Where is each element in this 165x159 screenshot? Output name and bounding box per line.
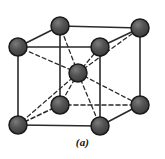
atom-corner: back bottom right <box>131 96 149 114</box>
atom-corner: back top left <box>9 38 27 56</box>
atom-corner: front bottom left <box>9 116 27 134</box>
atom-center: body center <box>69 64 87 82</box>
atom-corner: back top right <box>131 19 149 37</box>
atom-corner: front bottom right <box>91 117 109 135</box>
figure-caption: (a) <box>0 136 165 148</box>
cube-edge <box>18 125 100 126</box>
center-atom-bond <box>78 73 140 105</box>
cube-edge <box>60 26 140 28</box>
atom-corner: front top right <box>91 38 109 56</box>
crystal-structure-figure: back top leftback top righttop backfront… <box>0 0 165 159</box>
atom-corner: top back <box>51 17 69 35</box>
atom-corner: back bottom left <box>51 96 69 114</box>
atoms-group: back top leftback top righttop backfront… <box>9 17 149 135</box>
center-atom-bond <box>18 73 78 125</box>
